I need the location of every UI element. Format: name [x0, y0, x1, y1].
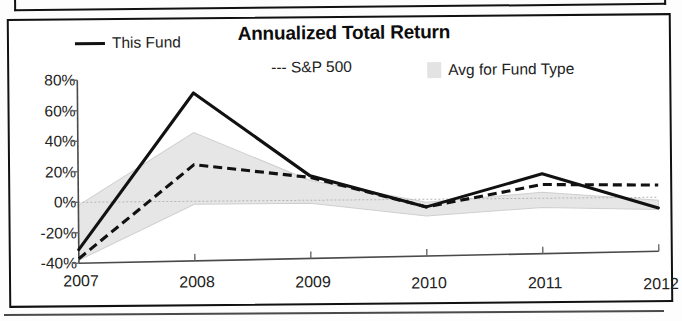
- x-axis-tick-label: 2010: [411, 274, 447, 292]
- solid-line-swatch-icon: [75, 42, 105, 45]
- legend-label-this-fund: This Fund: [112, 33, 181, 52]
- x-axis-tick-label: 2007: [63, 272, 99, 290]
- band-avg-for-fund-type: [78, 129, 659, 261]
- legend-item-this-fund: This Fund: [75, 33, 181, 52]
- page-artifact-box-above: [14, 0, 666, 11]
- chart-inner: Annualized Total Return This Fund --- S&…: [9, 15, 671, 306]
- chart-legend: This Fund --- S&P 500 Avg for Fund Type: [9, 15, 670, 83]
- chart-panel: Annualized Total Return This Fund --- S&…: [7, 13, 673, 308]
- x-axis-tick-label: 2008: [179, 273, 215, 291]
- plot-area: 80%60%40%20%0%-20%-40% 20072008200920102…: [9, 73, 671, 306]
- x-axis-tick-label: 2009: [295, 273, 331, 291]
- x-axis-labels: 200720082009201020112012YTD: [11, 261, 671, 303]
- legend-item-sp-500: --- S&P 500: [271, 58, 352, 77]
- x-axis-tick-label: 2012: [643, 275, 679, 293]
- legend-label-sp-500: --- S&P 500: [271, 58, 352, 77]
- page-artifact-line-below: [4, 310, 664, 316]
- x-axis-tick-label: 2011: [528, 274, 563, 292]
- scanned-page: Annualized Total Return This Fund --- S&…: [0, 0, 682, 321]
